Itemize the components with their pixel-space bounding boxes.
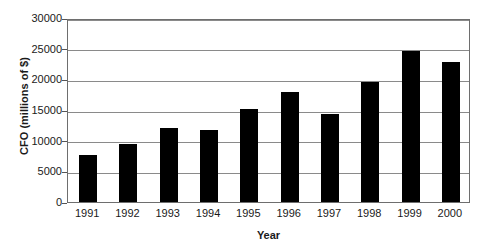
bar [200,130,218,202]
x-axis-tick-label: 2000 [430,206,470,220]
bar [160,128,178,202]
x-axis-tick-label: 1996 [269,206,309,220]
x-axis-tick-labels: 1991199219931994199519961997199819992000 [67,206,470,222]
x-axis-tick-label: 1998 [349,206,389,220]
bar [402,51,420,202]
bar-chart-figure: CFO (millions of $) 05000100001500020000… [0,0,494,250]
x-axis-tick-label: 1995 [228,206,268,220]
bar [240,109,258,202]
x-axis-tick-label: 1991 [67,206,107,220]
x-axis-tick-label: 1997 [309,206,349,220]
y-axis-title: CFO (millions of $) [16,4,32,208]
bar [119,144,137,202]
bar [321,114,339,202]
bar [281,92,299,202]
x-axis-tick-label: 1993 [148,206,188,220]
x-axis-tick-label: 1994 [188,206,228,220]
bar [79,155,97,202]
x-axis-title: Year [67,228,470,242]
plot-area [67,19,470,203]
x-axis-tick-label: 1999 [390,206,430,220]
bar [442,62,460,202]
x-axis-tick-label: 1992 [107,206,147,220]
bar [361,82,379,202]
gridline [68,20,469,21]
